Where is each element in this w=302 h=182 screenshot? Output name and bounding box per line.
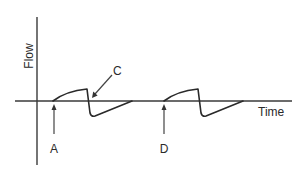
- marker-d-arrow-icon: [162, 104, 167, 134]
- marker-c-label: C: [113, 64, 122, 78]
- x-axis-label: Time: [258, 105, 285, 119]
- marker-a-label: A: [50, 142, 58, 156]
- flow-time-diagram: Flow Time A D C: [0, 0, 302, 182]
- waveform-cycle-1: [53, 89, 132, 116]
- marker-d-label: D: [160, 142, 169, 156]
- y-axis-label: Flow: [22, 43, 36, 69]
- waveform-cycle-2: [164, 89, 243, 116]
- marker-c-arrow-icon: [92, 75, 112, 98]
- marker-a-arrow-icon: [52, 104, 57, 134]
